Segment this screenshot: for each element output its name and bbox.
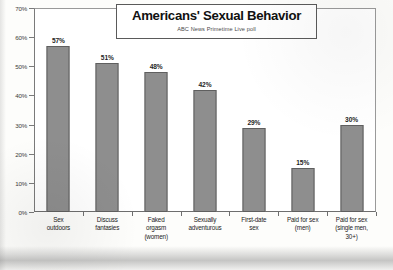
x-axis-category-label: Paid for sex(single men,30+): [327, 216, 376, 241]
x-axis-tick-mark: [327, 212, 328, 216]
bar-group: 57%: [34, 8, 83, 212]
y-axis-tick-label: 20%: [15, 150, 27, 157]
x-axis-category-line: Paid for sex: [278, 216, 327, 224]
y-axis-tick-label: 40%: [15, 92, 27, 99]
chart-title: Americans' Sexual Behavior: [117, 8, 316, 24]
x-axis-tick-mark: [376, 212, 377, 216]
x-axis-category-line: orgasm: [132, 224, 181, 232]
bar: [145, 72, 168, 212]
chart-title-box: Americans' Sexual Behavior ABC News Prim…: [116, 4, 317, 39]
x-axis-category-label: First-datesex: [229, 216, 278, 233]
bar: [242, 128, 265, 213]
x-axis-category-line: 30+): [327, 233, 376, 241]
bar-value-label: 42%: [199, 81, 212, 88]
x-axis-category-line: First-date: [229, 216, 278, 224]
x-axis-category-line: adventurous: [181, 224, 230, 232]
x-axis-category-line: Sexually: [181, 216, 230, 224]
x-axis-tick-mark: [132, 212, 133, 216]
x-axis-tick-mark: [83, 212, 84, 216]
x-axis-category-label: Discussfantasies: [83, 216, 132, 233]
bar: [291, 168, 314, 212]
x-axis-category-line: Faked: [132, 216, 181, 224]
bar-value-label: 30%: [345, 116, 358, 123]
x-axis-labels: SexoutdoorsDiscussfantasiesFakedorgasm(w…: [34, 216, 376, 270]
bar-value-label: 15%: [296, 159, 309, 166]
bar-value-label: 57%: [52, 37, 65, 44]
chart-subtitle: ABC News Primetime Live poll: [117, 26, 316, 32]
y-axis-tick-label: 70%: [15, 5, 27, 12]
y-axis-tick-label: 60%: [15, 34, 27, 41]
y-axis-tick-label: 30%: [15, 121, 27, 128]
x-axis-category-label: Fakedorgasm(women): [132, 216, 181, 241]
bar: [193, 90, 216, 212]
y-axis: 0%10%20%30%40%50%60%70%: [0, 0, 34, 220]
x-axis-category-line: outdoors: [34, 224, 83, 232]
bar-value-label: 29%: [247, 119, 260, 126]
y-axis-tick-mark: [29, 212, 34, 213]
x-axis-category-line: Paid for sex: [327, 216, 376, 224]
x-axis-category-line: (single men,: [327, 224, 376, 232]
x-axis-category-line: Sex: [34, 216, 83, 224]
x-axis-category-line: (women): [132, 233, 181, 241]
y-axis-tick-label: 10%: [15, 179, 27, 186]
bar: [96, 63, 119, 212]
x-axis-category-line: fantasies: [83, 224, 132, 232]
x-axis-category-label: Paid for sex(men): [278, 216, 327, 233]
bar: [47, 46, 70, 212]
x-axis-category-label: Sexoutdoors: [34, 216, 83, 233]
bar-value-label: 48%: [150, 63, 163, 70]
x-axis-category-line: (men): [278, 224, 327, 232]
y-axis-tick-label: 0%: [18, 209, 27, 216]
y-axis-tick-label: 50%: [15, 63, 27, 70]
bar-group: 30%: [327, 8, 376, 212]
bar: [340, 125, 363, 212]
x-axis-category-label: Sexuallyadventurous: [181, 216, 230, 233]
x-axis-category-line: Discuss: [83, 216, 132, 224]
chart-page: 0%10%20%30%40%50%60%70% 57%51%48%42%29%1…: [0, 0, 393, 270]
x-axis-tick-mark: [229, 212, 230, 216]
x-axis-tick-mark: [181, 212, 182, 216]
bar-value-label: 51%: [101, 54, 114, 61]
x-axis-tick-mark: [278, 212, 279, 216]
x-axis-category-line: sex: [229, 224, 278, 232]
